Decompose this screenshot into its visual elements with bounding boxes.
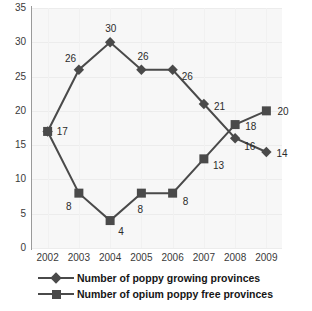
data-point-label: 26 — [137, 52, 148, 62]
chart-legend: Number of poppy growing provinces Number… — [38, 270, 288, 302]
square-marker-icon[interactable] — [199, 154, 208, 163]
data-point-label: 8 — [137, 205, 143, 215]
gridline-horizontal — [32, 248, 282, 249]
legend-item-label: Number of opium poppy free provinces — [74, 288, 273, 300]
data-point-label: 16 — [244, 142, 255, 152]
square-marker-icon[interactable] — [137, 189, 146, 198]
diamond-marker-icon[interactable] — [261, 147, 271, 157]
legend-item-poppy-free[interactable]: Number of opium poppy free provinces — [38, 286, 288, 302]
diamond-marker-icon — [38, 271, 74, 285]
data-point-label: 13 — [213, 161, 224, 171]
data-point-label: 26 — [182, 72, 193, 82]
y-axis-tick-label: 5 — [2, 209, 26, 219]
y-axis-tick-label: 20 — [2, 106, 26, 116]
data-point-label: 21 — [214, 102, 225, 112]
data-point-label: 18 — [245, 122, 256, 132]
square-marker-icon[interactable] — [262, 106, 271, 115]
data-point-label: 8 — [183, 197, 189, 207]
square-marker-icon[interactable] — [74, 189, 83, 198]
y-axis-tick-label: 0 — [2, 243, 26, 253]
y-axis-tick-label: 15 — [2, 140, 26, 150]
square-marker-icon[interactable] — [106, 216, 115, 225]
data-point-label: 17 — [57, 127, 68, 137]
y-axis-tick-label: 35 — [2, 3, 26, 13]
data-point-label: 30 — [105, 24, 116, 34]
data-point-label: 20 — [277, 107, 288, 117]
square-marker-icon[interactable] — [231, 120, 240, 129]
square-marker-icon[interactable] — [43, 127, 52, 136]
data-point-label: 8 — [66, 202, 72, 212]
legend-item-label: Number of poppy growing provinces — [74, 272, 260, 284]
y-axis-tick-label: 10 — [2, 174, 26, 184]
square-marker-icon[interactable] — [168, 189, 177, 198]
data-point-label: 14 — [276, 149, 287, 159]
data-point-label: 26 — [65, 54, 76, 64]
legend-item-poppy-growing[interactable]: Number of poppy growing provinces — [38, 270, 288, 286]
data-point-label: 4 — [118, 227, 124, 237]
y-axis-tick-label: 25 — [2, 72, 26, 82]
square-marker-icon — [38, 287, 74, 301]
y-axis-tick-label: 30 — [2, 37, 26, 47]
x-axis-tick-label: 2009 — [246, 253, 286, 263]
line-chart: 35302520151050 2002200320042005200620072… — [0, 0, 312, 311]
